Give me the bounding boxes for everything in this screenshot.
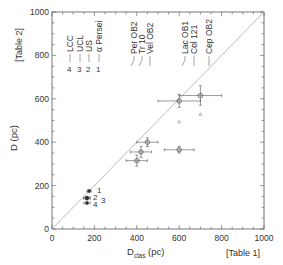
triangle-marker <box>199 113 202 116</box>
legend: 1α Persei2US3UCL4LCCPer OB2Tr 10Vel OB2L… <box>65 19 214 74</box>
legend-label: Cep OB2 <box>204 19 214 54</box>
y-axis-label: D (pc) <box>8 125 19 151</box>
y-tick-label: 400 <box>35 137 49 147</box>
legend-label: LCC <box>65 35 75 52</box>
data-point <box>84 201 90 205</box>
legend-label: α Persei <box>94 21 104 52</box>
legend-number: 3 <box>77 65 82 74</box>
legend-number: 2 <box>86 65 91 74</box>
scatter-chart: 0200400600800100002004006008001000 1234 … <box>0 0 283 265</box>
data-point <box>164 147 194 154</box>
x-tick-label: 400 <box>130 233 144 243</box>
data-point <box>87 189 91 193</box>
y-tick-label: 200 <box>35 181 49 191</box>
triangle-marker <box>178 120 181 123</box>
y-tick-label: 0 <box>44 224 49 234</box>
data-points: 1234 <box>84 86 222 209</box>
point-number-label: 3 <box>101 196 106 205</box>
x-note: [Table 1] <box>226 248 260 258</box>
data-point <box>126 155 147 166</box>
legend-label: Col 121 <box>189 24 199 54</box>
legend-label: UCL <box>75 35 85 52</box>
y-note: [Table 2] <box>14 28 24 62</box>
y-tick-label: 1000 <box>30 7 49 17</box>
x-axis-label: Dclas (pc) <box>127 246 164 259</box>
legend-number: 4 <box>67 65 72 74</box>
y-tick-label: 800 <box>35 50 49 60</box>
x-tick-label: 800 <box>215 233 229 243</box>
data-point <box>179 86 221 115</box>
x-tick-label: 0 <box>50 233 55 243</box>
y-tick-label: 600 <box>35 94 49 104</box>
legend-number: 1 <box>96 65 101 74</box>
x-tick-label: 200 <box>87 233 101 243</box>
data-point <box>130 147 151 158</box>
data-point <box>158 94 200 122</box>
legend-label: Vel OB2 <box>145 23 155 54</box>
legend-label: US <box>84 40 94 52</box>
x-tick-label: 1000 <box>255 233 274 243</box>
point-number-label: 4 <box>93 200 98 209</box>
x-tick-label: 600 <box>172 233 186 243</box>
point-number-label: 1 <box>97 186 102 195</box>
